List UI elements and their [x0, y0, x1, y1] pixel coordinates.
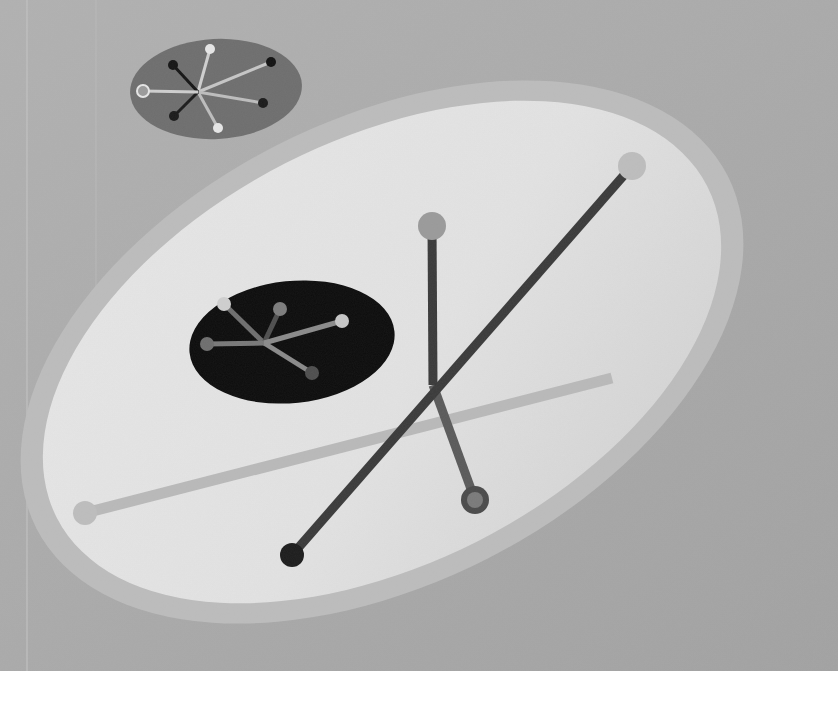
- painting-canvas: [0, 0, 838, 671]
- page-margin: [0, 671, 838, 723]
- paint-grain: [0, 0, 838, 671]
- abstract-painting: [0, 0, 838, 671]
